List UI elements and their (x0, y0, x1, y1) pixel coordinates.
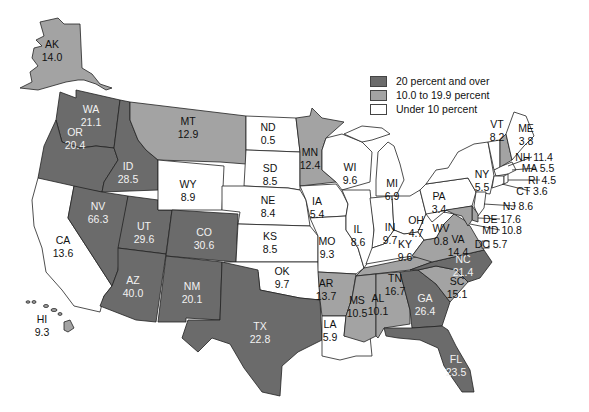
legend-row-light: Under 10 percent (370, 102, 489, 116)
state-value-label: 3.4 (432, 203, 447, 215)
state-abbr-label: MS (349, 294, 365, 306)
state-value-label: 9.7 (383, 234, 398, 246)
legend-label: 20 percent and over (396, 75, 489, 87)
state-abbr-label: CO (196, 226, 212, 238)
state-abbr-label: WI (344, 161, 357, 173)
state-value-label: 8.4 (261, 207, 276, 219)
state-value-label: 9.6 (343, 174, 358, 186)
state-value-label: 9.3 (35, 326, 50, 338)
state-abbr-label: UT (137, 220, 152, 232)
state-abbr-label: WA (83, 103, 100, 115)
state-value-label: 9.6 (398, 251, 413, 263)
state-value-label: 15.1 (447, 288, 468, 300)
state-value-label: 12.4 (300, 159, 321, 171)
state-value-label: 0.8 (434, 235, 449, 247)
state-ri (504, 174, 508, 184)
state-abbr-label: GA (417, 292, 432, 304)
state-value-label: 5.9 (323, 331, 338, 343)
state-value-label: 29.6 (134, 233, 155, 245)
state-value-label: 5.4 (310, 208, 325, 220)
state-value-label: 12.9 (178, 128, 199, 140)
state-abbr-label: ME (518, 122, 534, 134)
state-abbr-label: MO (319, 235, 336, 247)
state-abbr-label: NY (475, 168, 490, 180)
state-abbr-label: MI (386, 177, 398, 189)
state-value-label: 21.1 (81, 116, 102, 128)
state-abbr-label: TX (253, 320, 266, 332)
state-value-label: 23.5 (446, 366, 467, 378)
state-abbr-label: NM (184, 280, 200, 292)
state-value-label: 0.5 (261, 134, 276, 146)
state-abbr-label: ID (123, 160, 134, 172)
state-abbr-label: FL (450, 353, 462, 365)
state-value-label: 8.2 (490, 131, 505, 143)
state-abbr-label: OR (67, 126, 83, 138)
state-value-label: 14.4 (448, 246, 469, 258)
state-abbr-label: NV (91, 200, 106, 212)
state-abbr-label: IN (385, 221, 396, 233)
state-abbr-label: AR (319, 277, 334, 289)
state-ct (492, 176, 504, 188)
legend-swatch-light (370, 104, 387, 115)
state-abbr-label: OK (274, 265, 289, 277)
state-abbr-label: MN (302, 146, 318, 158)
state-abbr-label: CA (56, 234, 71, 246)
state-value-label: 16.7 (385, 285, 406, 297)
state-value-label: 21.4 (453, 266, 474, 278)
state-abbr-label: LA (324, 318, 337, 330)
state-abbr-label: AK (45, 38, 59, 50)
state-value-label: 8.6 (351, 236, 366, 248)
state-abbr-label: PA (432, 190, 445, 202)
state-value-label: 13.7 (316, 290, 337, 302)
legend-label: Under 10 percent (396, 103, 477, 115)
state-abbr-label: VT (490, 118, 504, 130)
callout-label-md: MD 10.8 (482, 224, 522, 236)
state-value-label: 8.5 (263, 243, 278, 255)
state-abbr-label: MT (180, 115, 196, 127)
legend-label: 10.0 to 19.9 percent (396, 89, 489, 101)
state-value-label: 3.8 (519, 135, 534, 147)
state-value-label: 28.5 (118, 173, 139, 185)
state-abbr-label: KS (263, 230, 277, 242)
state-value-label: 20.1 (182, 293, 203, 305)
state-value-label: 66.3 (88, 213, 109, 225)
state-value-label: 8.9 (181, 191, 196, 203)
state-abbr-label: OH (408, 214, 424, 226)
state-abbr-label: ND (260, 121, 276, 133)
us-choropleth-map: AK14.0WA21.1OR20.4CA13.6ID28.5NV66.3UT29… (0, 0, 589, 412)
legend-row-dark: 20 percent and over (370, 74, 489, 88)
state-value-label: 40.0 (123, 287, 144, 299)
callout-label-dc: DC 5.7 (475, 238, 508, 250)
state-abbr-label: VA (451, 233, 464, 245)
state-value-label: 8.5 (263, 175, 278, 187)
state-value-label: 22.8 (250, 333, 271, 345)
state-abbr-label: NE (261, 194, 276, 206)
state-abbr-label: AL (372, 292, 385, 304)
state-abbr-label: KY (398, 238, 412, 250)
state-hi (26, 301, 74, 332)
callout-label-ct: CT 3.6 (516, 185, 547, 197)
legend-swatch-dark (370, 76, 387, 87)
state-value-label: 9.7 (275, 278, 290, 290)
state-abbr-label: WV (433, 222, 450, 234)
state-abbr-label: AZ (126, 274, 140, 286)
state-value-label: 26.4 (415, 305, 436, 317)
state-value-label: 10.1 (368, 305, 389, 317)
state-value-label: 5.5 (475, 181, 490, 193)
state-ak (20, 18, 112, 90)
state-value-label: 30.6 (194, 239, 215, 251)
callout-label-nj: NJ 8.6 (503, 200, 534, 212)
state-abbr-label: HI (37, 313, 48, 325)
legend-swatch-medium (370, 90, 387, 101)
state-value-label: 13.6 (53, 247, 74, 259)
state-abbr-label: IL (354, 223, 363, 235)
state-value-label: 14.0 (42, 51, 63, 63)
state-value-label: 9.3 (320, 248, 335, 260)
legend-row-medium: 10.0 to 19.9 percent (370, 88, 489, 102)
state-value-label: 20.4 (65, 139, 86, 151)
state-abbr-label: TN (388, 272, 402, 284)
map-legend: 20 percent and over 10.0 to 19.9 percent… (370, 74, 489, 116)
state-abbr-label: IA (312, 195, 322, 207)
callout-label-ma: MA 5.5 (522, 162, 555, 174)
state-abbr-label: WY (180, 178, 197, 190)
